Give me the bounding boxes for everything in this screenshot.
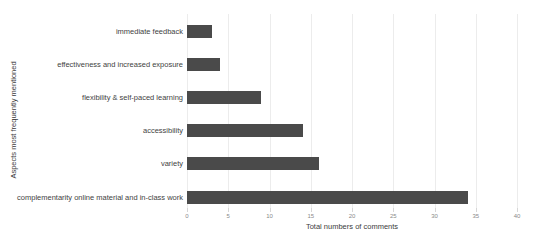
x-tick-label-0: 0: [185, 213, 188, 220]
gridline-x-35: [476, 14, 477, 208]
bar-0: [187, 25, 212, 38]
category-label-2: flexibility & self-paced learning: [0, 93, 183, 102]
x-tick-label-10: 10: [266, 213, 273, 220]
gridline-x-30: [435, 14, 436, 208]
bar-1: [187, 58, 220, 71]
bar-4: [187, 157, 319, 170]
tick-mark-x-0: [187, 208, 188, 212]
x-tick-label-25: 25: [390, 213, 397, 220]
bar-chart-figure: Aspects most frequently mentioned 051015…: [0, 0, 538, 240]
gridline-x-10: [270, 14, 271, 208]
tick-mark-x-20: [352, 208, 353, 212]
tick-mark-x-35: [476, 208, 477, 212]
x-tick-label-40: 40: [514, 213, 521, 220]
category-label-5: complementarity online material and in-c…: [0, 193, 183, 202]
plot-area: 0510152025303540: [187, 14, 517, 208]
category-label-3: accessibility: [0, 126, 183, 135]
bar-2: [187, 91, 261, 104]
bar-3: [187, 124, 303, 137]
category-label-0: immediate feedback: [0, 27, 183, 36]
tick-mark-x-5: [228, 208, 229, 212]
tick-mark-x-15: [311, 208, 312, 212]
gridline-x-15: [311, 14, 312, 208]
tick-mark-x-40: [517, 208, 518, 212]
gridline-x-25: [393, 14, 394, 208]
tick-mark-x-30: [435, 208, 436, 212]
x-tick-label-30: 30: [431, 213, 438, 220]
tick-mark-x-25: [393, 208, 394, 212]
x-tick-label-35: 35: [472, 213, 479, 220]
x-tick-label-15: 15: [307, 213, 314, 220]
x-tick-label-20: 20: [349, 213, 356, 220]
gridline-x-5: [228, 14, 229, 208]
x-axis-title: Total numbers of comments: [187, 222, 517, 231]
gridline-x-0: [187, 14, 188, 208]
gridline-x-20: [352, 14, 353, 208]
bar-5: [187, 191, 468, 204]
x-tick-label-5: 5: [227, 213, 230, 220]
tick-mark-x-10: [270, 208, 271, 212]
category-label-1: effectiveness and increased exposure: [0, 60, 183, 69]
category-label-4: variety: [0, 159, 183, 168]
gridline-x-40: [517, 14, 518, 208]
